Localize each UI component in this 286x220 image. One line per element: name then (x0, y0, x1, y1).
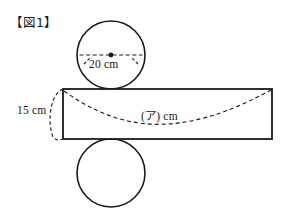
height-label: 15 cm (17, 104, 46, 116)
figure-caption: 【図1】 (10, 12, 57, 31)
diameter-right-tick (132, 58, 138, 64)
diameter-label: 20 cm (89, 58, 118, 70)
length-label: (ア) cm (141, 107, 178, 123)
figure-diagram: 【図1】 20 cm 15 cm (ア) cm (0, 0, 286, 220)
bottom-circle (77, 139, 145, 207)
center-point-dot (109, 53, 114, 58)
height-dimension-arc (50, 89, 63, 140)
